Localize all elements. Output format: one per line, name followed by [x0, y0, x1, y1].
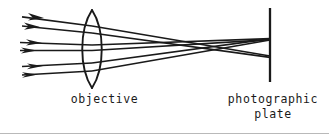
objective-lens: [82, 10, 102, 88]
optics-diagram-figure: objective photographicplate: [0, 0, 329, 136]
photographic-plate-label: photographicplate: [219, 92, 327, 122]
lens-left-surface: [82, 10, 92, 88]
lens-right-surface: [92, 10, 102, 88]
plate-label-line-1: photographic: [228, 92, 318, 106]
objective-label: objective: [57, 92, 152, 107]
bottom-divider: [0, 133, 329, 134]
ray-direction-arrowheads: [21, 13, 44, 78]
plate-label-line-2: plate: [219, 107, 327, 122]
refracted-rays: [92, 26, 270, 71]
